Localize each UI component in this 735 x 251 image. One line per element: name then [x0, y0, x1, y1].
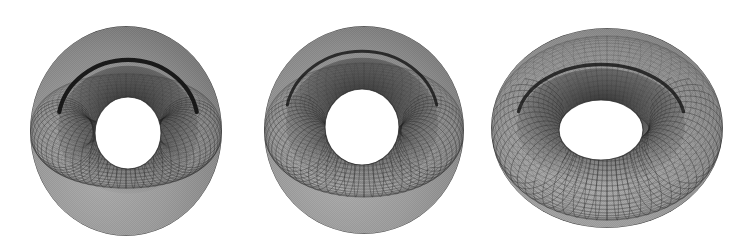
torus-panel-middle [264, 26, 464, 234]
torus-render-canvas [0, 0, 735, 251]
torus-panel-right [491, 28, 723, 228]
torus-figure [0, 0, 735, 251]
torus-panel-left [30, 26, 222, 236]
